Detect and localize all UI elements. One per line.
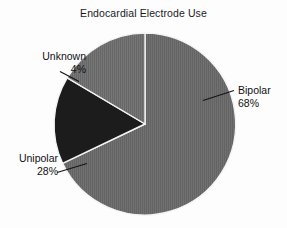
pie-chart-graphic xyxy=(0,0,287,228)
pie-label-unknown: Unknown 4% xyxy=(14,50,86,76)
pie-chart-figure: Endocardial Electrode Use Unknown 4% Bip… xyxy=(0,0,287,228)
pie-label-bipolar-value: 68% xyxy=(238,97,286,110)
pie-label-unknown-value: 4% xyxy=(14,63,86,76)
pie-label-bipolar-name: Bipolar xyxy=(238,84,271,96)
pie-label-unipolar-name: Unipolar xyxy=(19,152,58,164)
pie-label-unipolar-value: 28% xyxy=(2,165,58,178)
pie-label-bipolar: Bipolar 68% xyxy=(238,84,286,110)
pie-label-unknown-name: Unknown xyxy=(42,50,86,62)
pie-label-unipolar: Unipolar 28% xyxy=(2,152,58,178)
